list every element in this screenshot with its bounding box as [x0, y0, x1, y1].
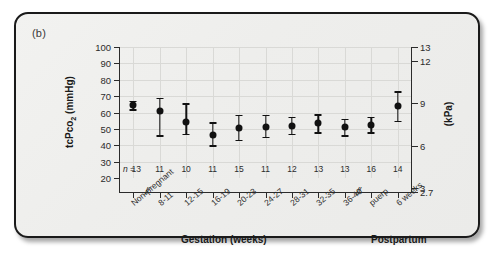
n-count: 11	[155, 164, 164, 174]
y-tick-left-label: 20	[83, 173, 111, 184]
x-tick-label: 24-27	[262, 186, 285, 208]
plot-wrap: 1009080706050403020 13129632.7 Non-pregn…	[16, 14, 482, 240]
n-count: 13	[314, 164, 323, 174]
y-tick-left-label: 60	[83, 107, 111, 118]
y-tick-right	[412, 61, 418, 62]
n-count: 14	[393, 164, 402, 174]
x-tick-label: 20-23	[235, 186, 258, 208]
error-bar-cap	[183, 103, 190, 104]
y-tick-left	[114, 96, 120, 97]
axis-break-mark: //	[145, 186, 149, 197]
y-axis-left-line	[119, 47, 120, 192]
error-bar-cap	[262, 137, 269, 138]
error-bar-cap	[156, 98, 163, 99]
n-count: 13	[340, 164, 349, 174]
axis-break-mark: //	[356, 186, 360, 197]
y-tick-right-label: 13	[420, 42, 431, 53]
error-bar-cap	[288, 134, 295, 135]
y-tick-right-label: 12	[420, 56, 431, 67]
figure-panel: (b) 1009080706050403020 13129632.7 Non-p…	[14, 12, 480, 238]
y-tick-left-label: 50	[83, 123, 111, 134]
data-point	[315, 120, 322, 127]
y-tick-left	[114, 129, 120, 130]
data-point	[236, 125, 243, 132]
y-tick-left	[114, 113, 120, 114]
y-tick-left-label: 90	[83, 58, 111, 69]
gridline-vertical	[371, 47, 372, 178]
error-bar-cap	[288, 117, 295, 118]
error-bar-cap	[183, 134, 190, 135]
plot-area	[120, 47, 411, 178]
data-point	[394, 102, 401, 109]
error-bar-cap	[156, 135, 163, 136]
gridline-vertical	[266, 47, 267, 178]
data-point	[183, 119, 190, 126]
data-point	[341, 124, 348, 131]
error-bar-cap	[341, 135, 348, 136]
x-tick-label: 32-35	[314, 186, 337, 208]
x-tick-label: 28-31	[288, 186, 311, 208]
error-bar	[159, 98, 160, 136]
y-tick-right	[412, 47, 418, 48]
data-point	[288, 122, 295, 129]
y-axis-right-line	[411, 47, 412, 192]
y-axis-right-title: (kPa)	[443, 102, 454, 126]
error-bar-cap	[315, 132, 322, 133]
n-count: 15	[234, 164, 243, 174]
y-tick-left	[114, 162, 120, 163]
gridline-vertical	[345, 47, 346, 178]
x-tick-label: 36-40	[341, 186, 364, 208]
error-bar-cap	[394, 91, 401, 92]
gridline-vertical	[292, 47, 293, 178]
error-bar-cap	[262, 115, 269, 116]
y-tick-right-label: 9	[420, 98, 425, 109]
n-count: 11	[208, 164, 217, 174]
y-tick-left-label: 70	[83, 91, 111, 102]
n-count: 12	[287, 164, 296, 174]
y-tick-left-label: 30	[83, 156, 111, 167]
error-bar-cap	[341, 119, 348, 120]
data-point	[262, 124, 269, 131]
error-bar-cap	[394, 121, 401, 122]
data-point	[156, 107, 163, 114]
data-point	[209, 131, 216, 138]
y-tick-right	[412, 103, 418, 104]
y-tick-left	[114, 47, 120, 48]
x-tick-label: puerp	[367, 186, 390, 208]
y-tick-left-label: 100	[83, 42, 111, 53]
x-tick-label: 16-19	[209, 186, 232, 208]
y-tick-left-label: 80	[83, 74, 111, 85]
data-point	[130, 102, 137, 109]
y-tick-left	[114, 80, 120, 81]
error-bar-cap	[209, 145, 216, 146]
gridline-vertical	[133, 47, 134, 178]
y-tick-right	[412, 146, 418, 147]
gridline-vertical	[213, 47, 214, 178]
error-bar-cap	[236, 140, 243, 141]
error-bar-cap	[130, 109, 137, 110]
n-count: 10	[181, 164, 190, 174]
y-tick-left	[114, 178, 120, 179]
gridline-vertical	[318, 47, 319, 178]
error-bar-cap	[368, 132, 375, 133]
y-axis-left-title: tcPco2 (mmHg)	[64, 76, 78, 148]
y-tick-left-label: 40	[83, 140, 111, 151]
n-equals-label: n =	[123, 164, 135, 174]
error-bar-cap	[315, 114, 322, 115]
x-tick-label: 12-15	[182, 186, 205, 208]
error-bar-cap	[209, 122, 216, 123]
error-bar-cap	[236, 115, 243, 116]
error-bar-cap	[368, 117, 375, 118]
gridline-vertical	[239, 47, 240, 178]
y-tick-left	[114, 63, 120, 64]
x-axis-title-postpartum: Postpartum	[371, 234, 427, 245]
y-tick-right-label: 6	[420, 140, 425, 151]
n-count: 11	[261, 164, 270, 174]
y-tick-left	[114, 145, 120, 146]
data-point	[368, 121, 375, 128]
n-count: 16	[367, 164, 376, 174]
x-axis-title-gestation: Gestation (weeks)	[181, 234, 267, 245]
